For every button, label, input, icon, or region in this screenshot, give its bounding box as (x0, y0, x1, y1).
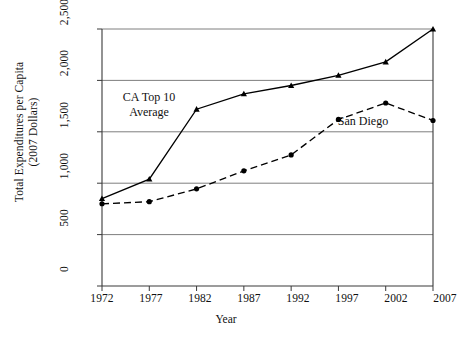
gridlines (102, 29, 433, 235)
x-axis-tick-marks (102, 286, 433, 291)
axis-lines (102, 29, 433, 286)
series-line-san-diego (99, 100, 435, 206)
series-line-ca-top-10-average (99, 26, 436, 201)
y-axis-tick-marks (97, 29, 102, 286)
